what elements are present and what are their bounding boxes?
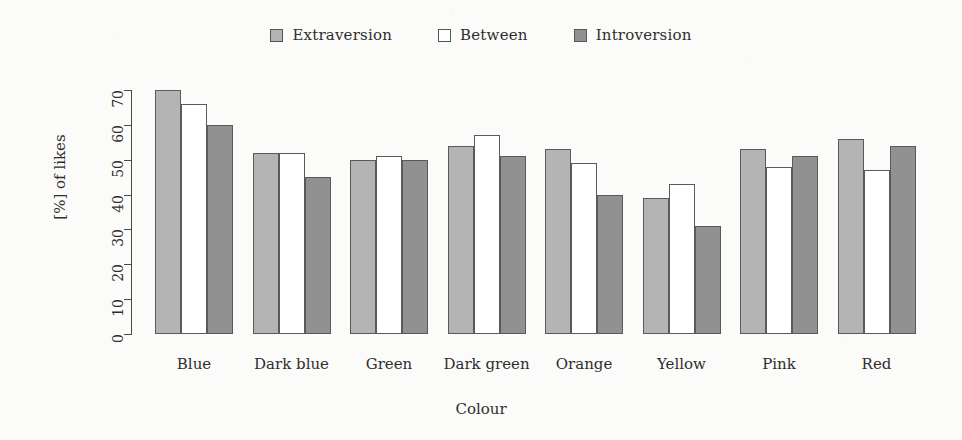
y-axis-tick-label-wrap: 10	[96, 291, 118, 307]
y-axis-tick-label-wrap: 0	[96, 326, 118, 342]
bar	[695, 226, 721, 334]
y-axis-tick-label: 60	[110, 125, 126, 143]
y-axis-tick-label-wrap: 60	[96, 117, 118, 133]
y-axis-tick-label: 70	[110, 90, 126, 108]
y-axis-tick-label-wrap: 50	[96, 152, 118, 168]
y-axis-tick-label-wrap: 70	[96, 82, 118, 98]
bar	[305, 177, 331, 334]
y-axis-label: [%] of likes	[51, 112, 69, 242]
bar	[402, 160, 428, 334]
bar	[279, 153, 305, 334]
y-axis-tick-label-wrap: 20	[96, 256, 118, 272]
bar	[864, 170, 890, 334]
y-axis-line	[131, 90, 132, 335]
bar	[838, 139, 864, 334]
y-axis-tick-label: 20	[110, 264, 126, 282]
bar	[545, 149, 571, 334]
y-axis-tick-label: 10	[110, 299, 126, 317]
bar	[207, 125, 233, 334]
bar	[669, 184, 695, 334]
bar	[376, 156, 402, 334]
bar	[740, 149, 766, 334]
x-axis-label: Colour	[0, 400, 962, 418]
bar	[181, 104, 207, 334]
bar	[448, 146, 474, 334]
x-axis-category-label: Red	[817, 355, 937, 373]
plot-area: 010203040506070 BlueDark blueGreenDark g…	[0, 0, 962, 440]
bar	[766, 167, 792, 334]
bar	[792, 156, 818, 334]
bar	[253, 153, 279, 334]
bar	[155, 90, 181, 334]
y-axis-tick-label: 40	[110, 195, 126, 213]
y-axis-tick-label: 30	[110, 229, 126, 247]
bar-chart-figure: ExtraversionBetweenIntroversion 01020304…	[0, 0, 962, 440]
bar	[474, 135, 500, 334]
y-axis-tick-label-wrap: 30	[96, 221, 118, 237]
bar	[597, 195, 623, 334]
y-axis-tick-label: 0	[110, 334, 126, 343]
bar	[500, 156, 526, 334]
y-axis-tick-label-wrap: 40	[96, 187, 118, 203]
bar	[890, 146, 916, 334]
y-axis-tick-label: 50	[110, 160, 126, 178]
bar	[350, 160, 376, 334]
bar	[571, 163, 597, 334]
bar	[643, 198, 669, 334]
